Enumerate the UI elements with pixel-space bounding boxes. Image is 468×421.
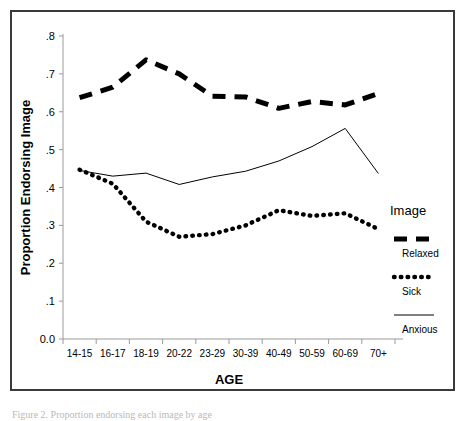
legend-label-relaxed: Relaxed — [402, 248, 439, 259]
legend-title: Image — [390, 203, 426, 218]
y-tick-label: 0.0 — [40, 333, 55, 345]
y-tick-label: .8 — [46, 30, 55, 42]
x-tick-label: 60-69 — [332, 348, 358, 359]
y-tick-label: .5 — [46, 144, 55, 156]
y-axis-ticks — [59, 36, 63, 339]
x-tick-label: 70+ — [370, 348, 387, 359]
x-tick-label: 40-49 — [266, 348, 292, 359]
y-tick-label: .6 — [46, 106, 55, 118]
y-tick-label: .4 — [46, 182, 55, 194]
data-series-group — [80, 60, 379, 237]
series-line-anxious — [80, 128, 379, 184]
figure-root: 0.0.1.2.3.4.5.6.7.8 14-1516-1718-1920-22… — [0, 0, 468, 421]
line-chart: 0.0.1.2.3.4.5.6.7.8 14-1516-1718-1920-22… — [0, 0, 468, 421]
y-tick-label: .1 — [46, 295, 55, 307]
x-tick-label: 14-15 — [67, 348, 93, 359]
x-axis-tick-labels: 14-1516-1718-1920-2223-2930-3940-4950-59… — [67, 348, 387, 359]
y-tick-label: .2 — [46, 257, 55, 269]
chart-legend: ImageRelaxedSickAnxious — [390, 203, 439, 335]
x-tick-label: 30-39 — [233, 348, 259, 359]
x-tick-label: 16-17 — [100, 348, 126, 359]
figure-caption: Figure 2. Proportion endorsing each imag… — [12, 409, 456, 421]
x-axis-title: AGE — [215, 372, 244, 387]
y-tick-label: .3 — [46, 219, 55, 231]
x-tick-label: 50-59 — [299, 348, 325, 359]
x-tick-label: 20-22 — [166, 348, 192, 359]
series-line-sick — [80, 170, 379, 237]
x-tick-label: 23-29 — [200, 348, 226, 359]
x-tick-label: 18-19 — [133, 348, 159, 359]
legend-label-sick: Sick — [402, 286, 422, 297]
x-axis-ticks — [63, 339, 395, 344]
figure-caption-text: Figure 2. Proportion endorsing each imag… — [12, 409, 456, 421]
legend-label-anxious: Anxious — [402, 324, 438, 335]
y-tick-label: .7 — [46, 68, 55, 80]
y-axis-tick-labels: 0.0.1.2.3.4.5.6.7.8 — [40, 30, 55, 345]
series-line-relaxed — [80, 60, 379, 108]
y-axis-title: Proportion Endorsing Image — [18, 100, 33, 276]
